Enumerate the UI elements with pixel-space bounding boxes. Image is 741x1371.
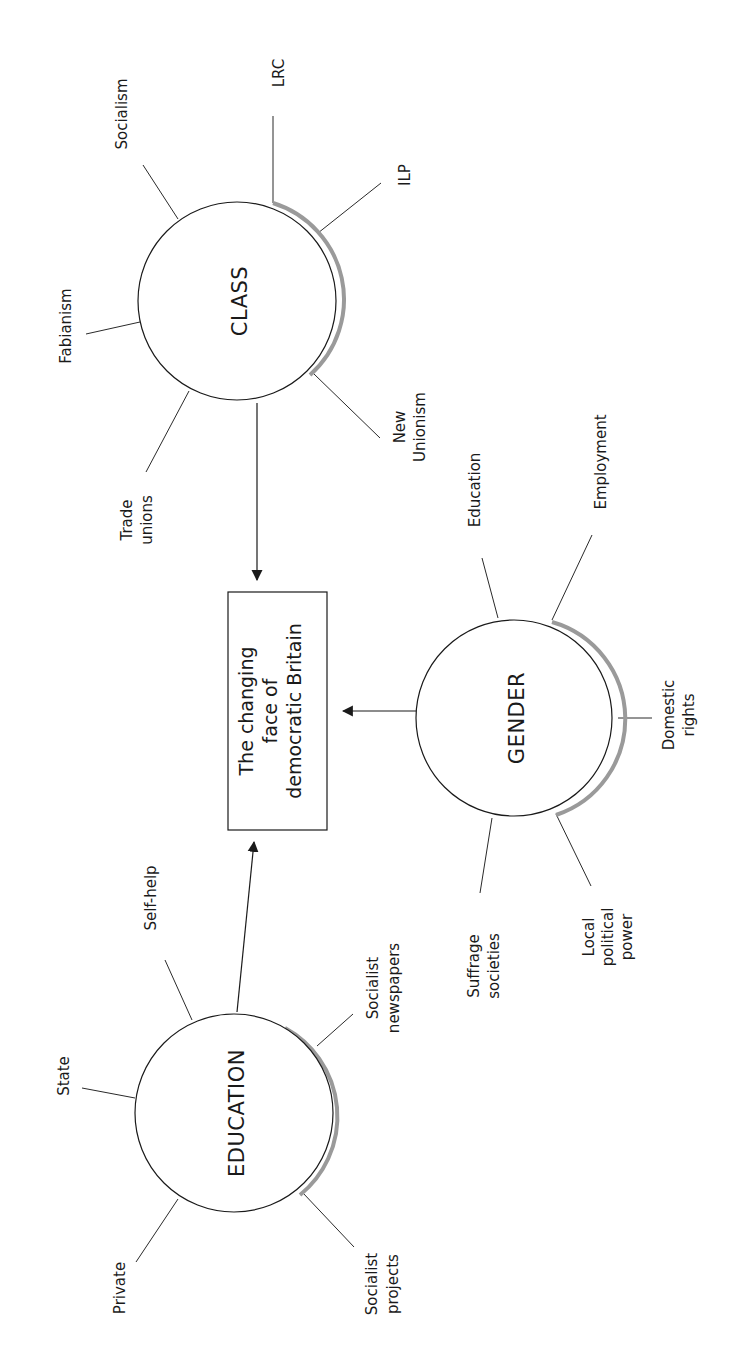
leaf-ilp: ILP [396,164,414,186]
leaf-local-political-power: Local political power [580,908,636,967]
socialism-spoke [143,165,178,219]
education-to-central-arrow [237,842,254,1012]
leaf-suffrage-societies: Suffrage societies [465,933,503,999]
socialist-newspapers-spoke [317,1014,353,1046]
leaf-self-help: Self-help [142,865,160,930]
leaf-trade-unions: Trade unions [118,495,156,545]
private-spoke [136,1199,178,1262]
employment-spoke [552,535,592,620]
leaf-suffrage-line-1: Suffrage [465,934,483,997]
leaf-local-line-1: Local [580,918,598,957]
leaf-trade-unions-line-1: Trade [118,499,136,541]
leaf-trade-unions-line-2: unions [138,495,156,545]
leaf-socialist-projects-line-1: Socialist [363,1253,381,1315]
socialist-projects-spoke [303,1193,354,1247]
fabianism-spoke [86,322,140,334]
leaf-socialist-projects: Socialist projects [363,1253,402,1315]
gender-hub: GENDER Education Employment Domestic rig… [416,414,698,999]
leaf-new-unionism-line-1: New [391,411,409,444]
central-concept-box: The changing face of democratic Britain [228,592,327,830]
gender-education-spoke [482,558,498,618]
leaf-gender-education: Education [466,453,484,528]
central-line-1: The changing [235,647,257,777]
ilp-spoke [318,183,381,233]
education-hub-label: EDUCATION [225,1049,249,1177]
leaf-socialist-newspapers-line-1: Socialist [364,957,382,1019]
leaf-domestic-rights-line-1: Domestic [660,680,678,751]
leaf-state: State [55,1056,73,1096]
leaf-local-line-3: power [618,913,636,960]
leaf-domestic-rights: Domestic rights [660,680,698,751]
leaf-socialist-projects-line-2: projects [384,1254,402,1314]
leaf-suffrage-line-2: societies [485,933,503,999]
self-help-spoke [165,960,192,1020]
leaf-private: Private [111,1262,129,1314]
suffrage-spoke [480,818,492,893]
trade-unions-spoke [146,391,189,472]
class-hub: CLASS Socialism LRC ILP Fabianism Trade … [57,59,429,545]
gender-hub-label: GENDER [505,672,529,764]
leaf-local-line-2: political [599,908,617,967]
new-unionism-spoke [314,374,380,438]
central-line-3: democratic Britain [283,623,305,799]
leaf-socialist-newspapers-line-2: newspapers [385,943,403,1033]
leaf-socialism: Socialism [113,78,131,149]
leaf-domestic-rights-line-2: rights [680,693,698,736]
leaf-fabianism: Fabianism [57,288,75,363]
leaf-new-unionism-line-2: Unionism [411,392,429,462]
leaf-employment: Employment [592,414,610,509]
local-political-power-spoke [556,814,591,886]
state-spoke [82,1088,135,1098]
mind-map-diagram: The changing face of democratic Britain … [0,0,741,1371]
leaf-new-unionism: New Unionism [391,392,429,462]
education-hub: EDUCATION Self-help Socialist newspapers… [55,865,403,1315]
leaf-socialist-newspapers: Socialist newspapers [364,943,403,1033]
central-line-2: face of [259,677,281,743]
class-hub-label: CLASS [228,266,252,336]
leaf-lrc: LRC [270,59,288,88]
